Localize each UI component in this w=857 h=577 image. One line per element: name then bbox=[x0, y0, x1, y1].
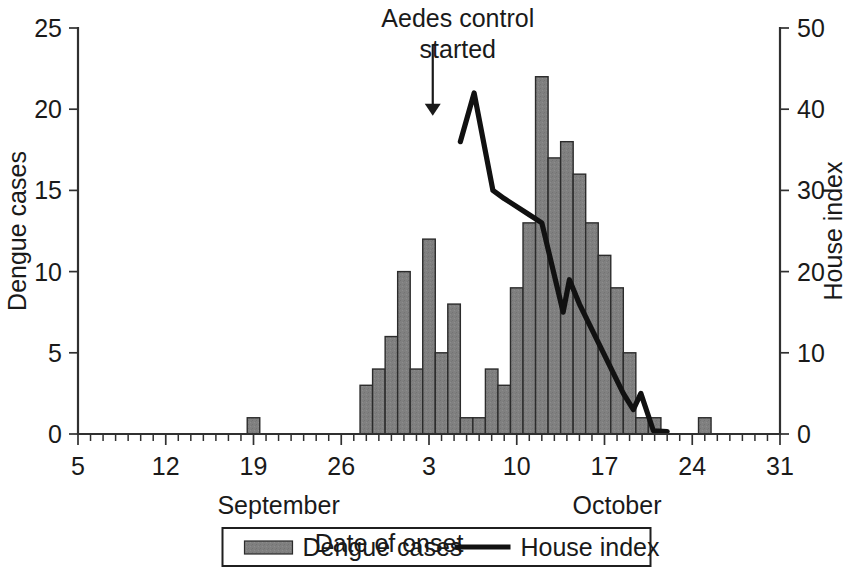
left-axis-tick-label-15: 15 bbox=[34, 176, 62, 204]
bar-50 bbox=[636, 418, 649, 434]
x-axis-tick-label-5: 5 bbox=[71, 452, 85, 480]
annotation-line-2: started bbox=[420, 35, 496, 63]
chart-canvas: 0510152025Dengue cases01020304050House i… bbox=[0, 0, 857, 577]
month-label-october: October bbox=[573, 491, 662, 519]
legend-label-dengue-cases: Dengue cases bbox=[303, 533, 463, 561]
bar-40 bbox=[510, 288, 523, 434]
right-axis-tick-label-10: 10 bbox=[797, 339, 825, 367]
bar-19 bbox=[247, 418, 260, 434]
x-axis-tick-label-10: 10 bbox=[503, 452, 531, 480]
left-axis-tick-label-25: 25 bbox=[34, 14, 62, 42]
left-axis-tick-label-5: 5 bbox=[48, 339, 62, 367]
bar-34 bbox=[435, 353, 448, 434]
bar-32 bbox=[410, 369, 423, 434]
bar-39 bbox=[498, 385, 511, 434]
left-axis-title: Dengue cases bbox=[3, 151, 31, 311]
x-axis-tick-label-31: 31 bbox=[766, 452, 794, 480]
bar-48 bbox=[611, 288, 624, 434]
x-axis-tick-label-17: 17 bbox=[591, 452, 619, 480]
bar-31 bbox=[398, 272, 411, 434]
x-axis-tick-label-24: 24 bbox=[678, 452, 706, 480]
left-axis-tick-label-0: 0 bbox=[48, 420, 62, 448]
bar-35 bbox=[448, 304, 461, 434]
chart-legend: Dengue casesHouse index bbox=[223, 528, 660, 566]
x-axis-tick-label-26: 26 bbox=[327, 452, 355, 480]
bar-33 bbox=[423, 239, 436, 434]
x-axis-tick-label-3: 3 bbox=[422, 452, 436, 480]
bar-37 bbox=[473, 418, 486, 434]
bar-42 bbox=[536, 77, 549, 434]
bar-28 bbox=[360, 385, 373, 434]
annotation-line-1: Aedes control bbox=[381, 4, 534, 32]
annotation-arrow-head bbox=[425, 104, 441, 116]
right-axis-title: House index bbox=[819, 161, 847, 300]
left-axis-tick-label-20: 20 bbox=[34, 95, 62, 123]
right-axis-tick-label-40: 40 bbox=[797, 95, 825, 123]
bar-38 bbox=[485, 369, 498, 434]
legend-swatch-dengue-cases bbox=[245, 541, 293, 554]
bar-36 bbox=[460, 418, 473, 434]
right-axis-tick-label-0: 0 bbox=[797, 420, 811, 448]
bar-30 bbox=[385, 337, 398, 434]
right-axis-tick-label-50: 50 bbox=[797, 14, 825, 42]
left-axis-tick-label-10: 10 bbox=[34, 258, 62, 286]
x-axis-tick-label-12: 12 bbox=[152, 452, 180, 480]
month-label-september: September bbox=[217, 491, 339, 519]
dengue-cases-house-index-figure: 0510152025Dengue cases01020304050House i… bbox=[0, 0, 857, 577]
bar-55 bbox=[699, 418, 712, 434]
x-axis-tick-label-19: 19 bbox=[240, 452, 268, 480]
annotation-layer: Aedes controlstarted bbox=[381, 4, 534, 116]
bar-29 bbox=[373, 369, 386, 434]
bar-41 bbox=[523, 223, 536, 434]
legend-label-house-index: House index bbox=[521, 533, 660, 561]
